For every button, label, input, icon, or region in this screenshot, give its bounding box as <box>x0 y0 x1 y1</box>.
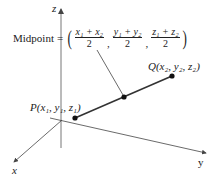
point-p <box>72 115 77 120</box>
point-p-label: P(x₁, y₁, z₁) <box>30 102 81 113</box>
z-axis-label: z <box>52 3 56 14</box>
fraction-z-numerator: z₁ + z₂ <box>151 26 179 38</box>
y-axis <box>50 118 206 153</box>
y-axis-label: y <box>198 157 204 168</box>
midpoint-prefix: Midpoint <box>13 31 54 44</box>
fraction-z: z₁ + z₂ 2 <box>151 26 179 49</box>
point-q <box>169 73 174 78</box>
comma: , <box>145 27 148 49</box>
fraction-z-denominator: 2 <box>163 38 168 49</box>
fraction-x: x₁ + x₂ 2 <box>75 26 105 49</box>
fraction-y-numerator: y₁ + y₂ <box>113 26 143 38</box>
open-paren: ( <box>68 27 72 49</box>
fraction-y: y₁ + y₂ 2 <box>113 26 143 49</box>
x-axis <box>14 120 62 162</box>
x-axis-label: x <box>12 165 17 176</box>
point-midpoint <box>121 94 126 99</box>
close-paren: ) <box>182 27 186 49</box>
comma: , <box>107 27 110 49</box>
point-q-label: Q(x₂, y₂, z₂) <box>148 61 200 72</box>
midpoint-leader-line <box>97 50 123 95</box>
fraction-x-numerator: x₁ + x₂ <box>75 26 105 38</box>
fraction-y-denominator: 2 <box>125 38 130 49</box>
fraction-x-denominator: 2 <box>87 38 92 49</box>
equals-sign: = <box>57 32 63 44</box>
midpoint-formula: Midpoint = ( x₁ + x₂ 2 , y₁ + y₂ 2 , z₁ … <box>13 26 188 49</box>
